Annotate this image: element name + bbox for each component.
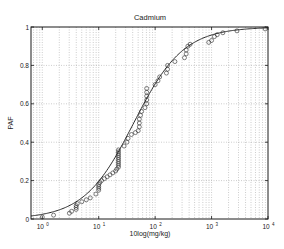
y-axis-label: PAF [7, 116, 14, 129]
y-tick-label: 1 [25, 24, 29, 31]
x-tick-label: 10 [93, 223, 101, 230]
x-tick-label: 10 [206, 223, 214, 230]
x-tick-label: 10 [150, 223, 158, 230]
y-tick-label: 0.2 [20, 177, 29, 184]
y-tick-label: 0.6 [20, 100, 29, 107]
cadmium-ssd-chart: 100101102103104 00.20.40.60.81 Cadmium 1… [0, 0, 284, 249]
x-tick-label: 10 [37, 223, 45, 230]
x-axis-label: 10log(mg/kg) [130, 230, 171, 238]
y-tick-label: 0.4 [20, 139, 29, 146]
figure-background [0, 0, 284, 249]
y-tick-label: 0 [25, 216, 29, 223]
y-tick-label: 0.8 [20, 62, 29, 69]
chart-title: Cadmium [134, 13, 166, 22]
x-tick-label: 10 [262, 223, 270, 230]
